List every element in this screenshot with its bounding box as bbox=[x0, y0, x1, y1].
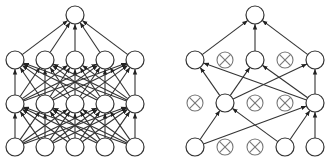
connection-edge bbox=[22, 20, 68, 54]
dropped-neuron-icon bbox=[277, 95, 293, 111]
neuron-node bbox=[306, 138, 324, 156]
connection-edge bbox=[290, 110, 310, 139]
connection-edge bbox=[82, 20, 128, 54]
neuron-node bbox=[126, 95, 144, 113]
neuron-node bbox=[126, 51, 144, 69]
neuron-node bbox=[246, 51, 264, 69]
dropout-diagram bbox=[0, 0, 325, 163]
dropped-neuron-icon bbox=[247, 95, 263, 111]
neuron-node bbox=[276, 138, 294, 156]
neuron-node bbox=[96, 95, 114, 113]
connection-edge bbox=[200, 67, 220, 95]
neuron-node bbox=[36, 138, 54, 156]
connection-edge bbox=[80, 22, 100, 52]
neuron-node bbox=[96, 138, 114, 156]
neuron-node bbox=[186, 51, 204, 69]
neuron-node bbox=[36, 95, 54, 113]
neuron-node bbox=[126, 138, 144, 156]
connection-edge bbox=[202, 20, 248, 54]
neuron-node bbox=[66, 95, 84, 113]
neuron-node bbox=[36, 51, 54, 69]
neuron-node bbox=[66, 51, 84, 69]
neuron-node bbox=[6, 95, 24, 113]
neuron-node bbox=[66, 6, 84, 24]
dropped-neuron-icon bbox=[187, 95, 203, 111]
dropped-neuron-icon bbox=[277, 52, 293, 68]
neuron-node bbox=[6, 51, 24, 69]
neuron-node bbox=[6, 138, 24, 156]
connection-edge bbox=[262, 20, 308, 54]
neuron-node bbox=[246, 6, 264, 24]
connection-edge bbox=[233, 64, 307, 99]
connection-edge bbox=[50, 22, 70, 52]
dropped-neuron-icon bbox=[217, 52, 233, 68]
neuron-node bbox=[66, 138, 84, 156]
neuron-node bbox=[306, 51, 324, 69]
connection-edge bbox=[230, 67, 250, 95]
dropped-neuron-icon bbox=[247, 139, 263, 155]
dropped-neuron-icon bbox=[217, 139, 233, 155]
standard-network-panel bbox=[6, 6, 144, 156]
edges bbox=[15, 20, 135, 144]
neuron-node bbox=[96, 51, 114, 69]
neuron-node bbox=[216, 94, 234, 112]
dropout-network-panel bbox=[186, 6, 324, 156]
neuron-node bbox=[306, 94, 324, 112]
edges bbox=[200, 20, 315, 144]
connection-edge bbox=[232, 108, 277, 141]
connection-edge bbox=[200, 110, 220, 139]
neuron-node bbox=[186, 138, 204, 156]
